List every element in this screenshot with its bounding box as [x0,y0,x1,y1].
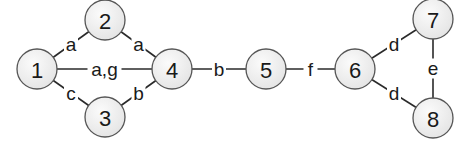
edge-label-2-4: a [133,34,144,55]
edge-label-7-8: e [428,58,439,79]
node-label: 2 [99,9,111,34]
edge-label-6-8: d [389,83,400,104]
node-7: 7 [413,0,453,39]
graph-diagram: aaa,gcbbfdde 12345678 [0,0,461,145]
edge-label-6-7: d [389,34,400,55]
node-label: 8 [427,107,439,132]
edge-label-1-3: c [66,83,76,104]
edge-label-1-2: a [66,34,77,55]
node-1: 1 [17,49,57,89]
node-2: 2 [85,0,125,40]
node-label: 1 [31,58,43,83]
node-4: 4 [152,49,192,89]
edge-label-3-4: b [133,83,144,104]
node-label: 5 [260,58,272,83]
edge-label-5-6: f [308,59,314,80]
edge-label-4-5: b [214,59,225,80]
node-label: 6 [349,58,361,83]
edge-label-1-4: a,g [91,59,117,80]
node-8: 8 [413,98,453,138]
node-5: 5 [246,49,286,89]
node-label: 4 [166,58,178,83]
node-label: 7 [427,8,439,33]
node-6: 6 [335,49,375,89]
node-3: 3 [85,97,125,137]
node-label: 3 [99,106,111,131]
